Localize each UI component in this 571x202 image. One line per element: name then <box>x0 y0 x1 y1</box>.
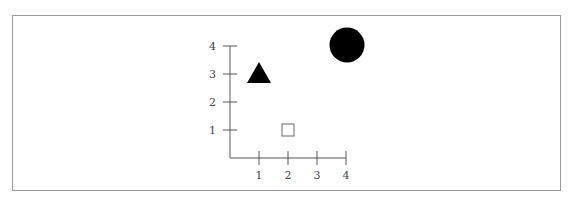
triangle-marker <box>247 62 271 83</box>
y-tick-label: 1 <box>209 124 216 137</box>
x-tick-label: 4 <box>343 169 350 182</box>
y-tick-label: 3 <box>209 68 216 81</box>
square-marker <box>282 124 294 136</box>
scatter-chart: 12341234 <box>0 0 571 202</box>
y-tick-label: 2 <box>209 96 216 109</box>
x-tick-label: 2 <box>285 169 292 182</box>
y-tick-label: 4 <box>209 40 216 53</box>
circle-marker <box>330 28 365 63</box>
x-tick-label: 3 <box>314 169 321 182</box>
x-tick-label: 1 <box>256 169 263 182</box>
